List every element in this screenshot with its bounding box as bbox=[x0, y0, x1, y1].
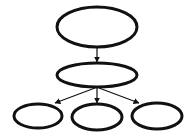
node-middle bbox=[57, 63, 137, 87]
node-child-center bbox=[72, 104, 122, 130]
node-root bbox=[57, 7, 137, 47]
arrow-middle-to-child-left bbox=[55, 88, 95, 103]
arrow-middle-to-child-right bbox=[99, 88, 139, 103]
node-child-left bbox=[14, 104, 62, 128]
tree-diagram bbox=[0, 0, 195, 140]
node-child-right bbox=[132, 103, 182, 129]
nodes-group bbox=[14, 7, 182, 130]
